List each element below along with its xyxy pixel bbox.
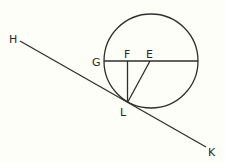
label-E: E xyxy=(146,48,153,61)
diagram-canvas: HGFELK xyxy=(0,0,225,162)
label-F: F xyxy=(124,48,130,61)
label-K: K xyxy=(208,146,216,159)
geometry-figure: HGFELK xyxy=(0,0,225,162)
tangent-line-HK xyxy=(20,41,206,147)
segments-group xyxy=(20,41,206,147)
label-H: H xyxy=(9,33,17,46)
label-G: G xyxy=(92,56,101,69)
label-L: L xyxy=(120,106,127,119)
segment-EL xyxy=(128,61,151,103)
